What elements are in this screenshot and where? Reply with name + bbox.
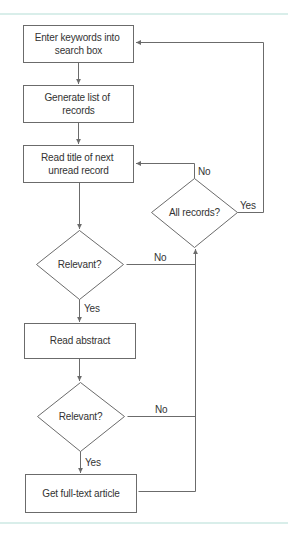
node-label: Read abstract <box>50 335 111 346</box>
node-label-line: unread record <box>48 165 108 176</box>
decision-relevant-title: Relevant? <box>37 231 124 300</box>
decision-label: Relevant? <box>58 259 102 270</box>
node-label-line: Generate list of <box>44 92 110 103</box>
decision-label: Relevant? <box>59 411 103 422</box>
node-read-abstract: Read abstract <box>25 324 136 359</box>
edge-label-no: No <box>198 166 211 177</box>
node-label-line: Read title of next <box>41 152 114 163</box>
search-flowchart: Enter keywords into search box Generate … <box>0 0 288 535</box>
edge-label-no: No <box>154 252 167 263</box>
node-generate-list: Generate list of records <box>24 86 134 123</box>
decision-all-records: All records? <box>152 179 238 248</box>
node-label-line: search box <box>55 45 103 56</box>
decision-relevant-abstract: Relevant? <box>38 383 125 452</box>
edge-label-no: No <box>155 404 168 415</box>
edge-label-yes: Yes <box>84 303 100 314</box>
decision-label: All records? <box>169 207 221 218</box>
edge-label-yes: Yes <box>240 200 256 211</box>
edge-merge-to-all-records <box>139 249 196 492</box>
node-label-line: Enter keywords into <box>35 32 121 43</box>
node-label: Get full-text article <box>42 488 120 499</box>
edge-label-yes: Yes <box>85 457 101 468</box>
node-enter-keywords: Enter keywords into search box <box>24 26 134 63</box>
node-get-full-text: Get full-text article <box>26 475 137 513</box>
node-read-title: Read title of next unread record <box>24 146 134 183</box>
node-label-line: records <box>62 105 94 116</box>
edge-all-records-no-to-read-title <box>136 164 195 179</box>
